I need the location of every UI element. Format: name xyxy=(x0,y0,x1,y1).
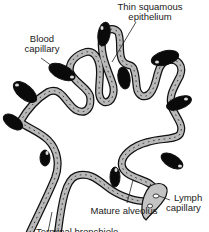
label-blood-capillary: Blood capillary xyxy=(18,34,66,54)
label-thin-squamous-epithelium: Thin squamous epithelium xyxy=(100,2,200,22)
label-mature-alveolus: Mature alveolus xyxy=(82,206,166,216)
alveolus-diagram: Thin squamous epithelium Blood capillary… xyxy=(0,0,209,232)
label-line-2: capillary xyxy=(166,203,209,213)
label-terminal-bronchiole: Terminal bronchiole xyxy=(36,227,156,232)
label-line-2: epithelium xyxy=(100,12,200,22)
label-lymph-capillary: Lymph capillary xyxy=(168,193,209,213)
label-line-2: capillary xyxy=(18,44,66,54)
